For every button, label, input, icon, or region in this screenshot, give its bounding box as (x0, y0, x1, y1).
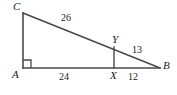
length-label-XB: 12 (128, 72, 138, 82)
geometry-drawing-canvas (0, 0, 177, 95)
segment-CB (23, 13, 160, 68)
vertex-label-B: B (163, 60, 170, 71)
vertex-label-X: X (110, 70, 117, 81)
right-angle-marker (23, 60, 31, 68)
length-label-YB: 13 (132, 45, 142, 55)
vertex-label-C: C (13, 1, 20, 12)
length-label-AX: 24 (59, 72, 69, 82)
length-label-CY: 26 (61, 13, 71, 23)
vertex-label-A: A (12, 69, 19, 80)
geometry-figure: C A B X Y 26 24 13 12 (0, 0, 177, 95)
vertex-label-Y: Y (112, 34, 118, 45)
